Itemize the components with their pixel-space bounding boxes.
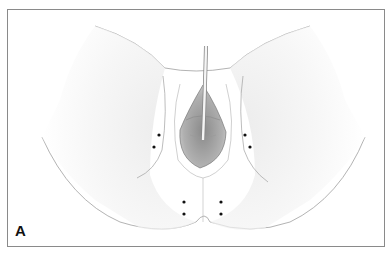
panel-label: A [15,223,26,238]
tube [203,46,206,140]
marker-dot [182,212,185,215]
marker-dot [219,212,222,215]
anatomical-illustration [0,0,392,257]
marker-dot [157,133,160,136]
marker-dot [248,145,251,148]
marker-dot [243,133,246,136]
marker-dot [152,145,155,148]
marker-dot [219,200,222,203]
marker-dot [182,200,185,203]
